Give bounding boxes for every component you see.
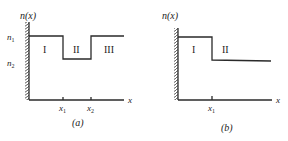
tick-label-x2: x2 — [86, 103, 94, 114]
region-label-I: I — [43, 44, 46, 55]
x-axis-label: x — [275, 95, 280, 105]
region-label-II: II — [73, 44, 80, 55]
caption-a: (a) — [72, 117, 84, 129]
tick-label-x1: x1 — [58, 103, 66, 114]
tick-label-x1: x1 — [207, 103, 215, 114]
level-label-n2: n2 — [7, 58, 15, 69]
caption-b: (b) — [221, 122, 233, 134]
panel-b: n(x) I II x1 x (b) — [162, 10, 280, 134]
level-label-n1: n1 — [7, 32, 15, 43]
x-axis-label: x — [127, 95, 132, 105]
y-axis-label: n(x) — [20, 10, 37, 22]
refractive-index-diagram: n(x) n1 n2 I II III x1 x2 x (a) n(x) I I… — [0, 0, 288, 141]
y-axis-label: n(x) — [162, 10, 179, 22]
region-label-III: III — [104, 44, 114, 55]
region-label-I: I — [192, 44, 195, 55]
region-label-II: II — [222, 44, 229, 55]
panel-a: n(x) n1 n2 I II III x1 x2 x (a) — [7, 10, 132, 129]
